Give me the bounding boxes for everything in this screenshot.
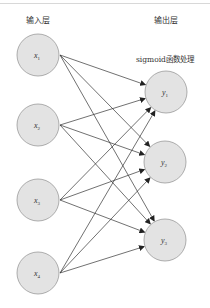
edge-x4-y1: [60, 111, 155, 273]
output-node-y1: y1: [145, 71, 187, 113]
edge-x1-y3: [60, 55, 154, 221]
edge-x3-y3: [60, 200, 144, 232]
input-node-x2: x2: [17, 104, 59, 146]
nodes: x1x2x3x4y1y2y3: [17, 34, 187, 294]
edge-x3-y2: [60, 169, 144, 200]
output-node-y2: y2: [144, 141, 186, 183]
input-node-x3: x3: [17, 179, 59, 221]
neural-network-diagram: x1x2x3x4y1y2y3: [0, 0, 210, 308]
edge-x1-y1: [60, 55, 145, 85]
edge-x3-y1: [60, 108, 151, 200]
input-node-x4: x4: [17, 252, 59, 294]
output-node-y3: y3: [144, 219, 186, 261]
connections: [60, 55, 155, 273]
edge-x2-y3: [60, 125, 150, 224]
edge-x1-y2: [60, 55, 150, 146]
input-node-x1: x1: [17, 34, 59, 76]
edge-x2-y1: [60, 99, 145, 125]
